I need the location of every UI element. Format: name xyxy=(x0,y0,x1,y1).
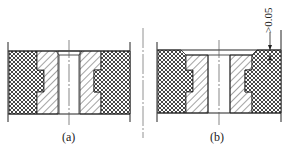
panel-a xyxy=(8,40,130,125)
dimension-arrow xyxy=(268,32,272,64)
dimension-label: >0.05 xyxy=(262,8,274,33)
panel-b xyxy=(157,30,281,125)
caption-b: (b) xyxy=(210,130,224,145)
section-diagram xyxy=(0,0,288,159)
caption-a: (a) xyxy=(62,130,75,145)
